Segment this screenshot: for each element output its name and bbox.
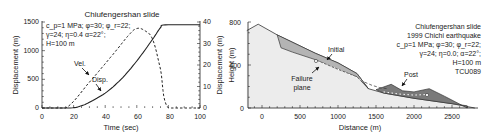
disp-arrow-icon bbox=[96, 84, 101, 91]
h-tick-0: 0 bbox=[240, 105, 244, 112]
vel-label: Vel. bbox=[74, 60, 86, 67]
d-tick-1500: 1500 bbox=[368, 113, 384, 120]
left-xlabel: Time (sec) bbox=[103, 123, 139, 132]
right-xlabel: Distance (m) bbox=[339, 123, 382, 132]
param-line-1: c_p=1 MPa; φ=30; φ_r=22; bbox=[46, 22, 130, 30]
y2-tick-0: 0 bbox=[203, 104, 207, 111]
legend-line-6: TCU089 bbox=[455, 68, 481, 75]
disp-label: Disp. bbox=[92, 76, 108, 84]
y2-tick-20: 20 bbox=[203, 61, 211, 68]
left-ylabel: Displacement (m) bbox=[11, 35, 20, 94]
legend-line-5: H=100 m bbox=[452, 59, 481, 66]
legend-line-4: γ=24; η=0.0; α=22°; bbox=[419, 50, 481, 58]
post-arrow-icon bbox=[402, 79, 407, 86]
y2-tick-40: 40 bbox=[203, 18, 211, 25]
x-tick-40: 40 bbox=[102, 113, 110, 120]
h-tick-800: 800 bbox=[229, 19, 241, 26]
post-label: Post bbox=[404, 71, 418, 78]
figure: Chiufengershan slide c_p=1 MPa; φ=30; φ_… bbox=[0, 0, 489, 140]
left-chart-title: Chiufengershan slide bbox=[84, 10, 160, 19]
y2-tick-30: 30 bbox=[203, 40, 211, 47]
legend-line-3: c_p=1 MPa; φ=30; φ_r=22; bbox=[397, 41, 481, 49]
right-ylabel: Height (m) bbox=[227, 47, 236, 83]
initial-centroid-marker bbox=[314, 59, 317, 62]
left-chart: Chiufengershan slide c_p=1 MPa; φ=30; φ_… bbox=[11, 10, 224, 132]
right-chart: 800 400 0 Height (m) 0 500 1000 1500 200… bbox=[227, 19, 481, 132]
post-centroid-marker bbox=[425, 93, 428, 96]
x-tick-20: 20 bbox=[70, 113, 78, 120]
y-tick-500: 500 bbox=[27, 75, 39, 82]
d-tick-2500: 2500 bbox=[444, 113, 460, 120]
y-tick-0: 0 bbox=[35, 104, 39, 111]
left-ylabel-right: Displacement (m) bbox=[215, 35, 224, 94]
y-tick-1000: 1000 bbox=[23, 47, 39, 54]
param-line-2: γ=24; η=0.4 α=22°; bbox=[46, 31, 106, 39]
x-tick-60: 60 bbox=[134, 113, 142, 120]
plane-label: plane bbox=[293, 84, 310, 92]
x-tick-100: 100 bbox=[194, 113, 206, 120]
legend-line-2: 1999 Chichi earthquake bbox=[407, 32, 481, 40]
vel-arrow-icon bbox=[82, 68, 89, 75]
d-tick-0: 0 bbox=[260, 113, 264, 120]
x-tick-0: 0 bbox=[40, 113, 44, 120]
x-tick-80: 80 bbox=[166, 113, 174, 120]
failure-label: Failure bbox=[291, 75, 313, 82]
d-tick-1000: 1000 bbox=[330, 113, 346, 120]
y2-tick-10: 10 bbox=[203, 83, 211, 90]
legend-line-1: Chiufengershan slide bbox=[415, 23, 481, 31]
d-tick-2000: 2000 bbox=[406, 113, 422, 120]
y-tick-1500: 1500 bbox=[23, 18, 39, 25]
initial-label: Initial bbox=[328, 46, 345, 53]
param-line-3: H=100 m bbox=[46, 40, 75, 47]
d-tick-500: 500 bbox=[294, 113, 306, 120]
